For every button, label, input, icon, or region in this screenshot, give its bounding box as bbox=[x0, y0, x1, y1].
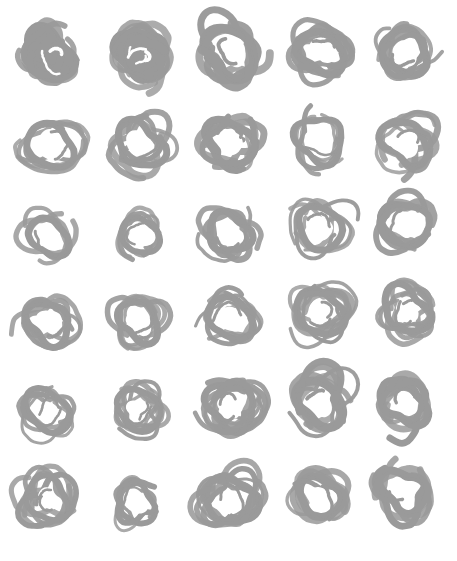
scribble-circle bbox=[286, 468, 350, 523]
drawing-canvas bbox=[0, 0, 457, 561]
scribble-circle-grid bbox=[0, 0, 457, 561]
